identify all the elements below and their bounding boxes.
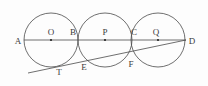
point-label-E: E xyxy=(81,63,87,72)
point-label-P: P xyxy=(102,28,107,37)
point-label-B: B xyxy=(70,28,76,37)
point-label-A: A xyxy=(15,37,22,46)
point-label-T: T xyxy=(56,68,62,77)
center-dot-Q xyxy=(157,39,159,41)
point-label-D: D xyxy=(189,37,196,46)
geometry-figure: AOBPCQDTEF xyxy=(0,0,208,86)
tangent-from-D xyxy=(28,40,186,73)
figure-canvas xyxy=(0,0,208,86)
point-label-O: O xyxy=(48,28,55,37)
tangent-line-group xyxy=(28,40,186,73)
center-dot-O xyxy=(50,39,52,41)
point-label-Q: Q xyxy=(153,28,160,37)
center-dot-P xyxy=(104,39,106,41)
point-label-C: C xyxy=(131,28,137,37)
point-label-F: F xyxy=(128,60,133,69)
